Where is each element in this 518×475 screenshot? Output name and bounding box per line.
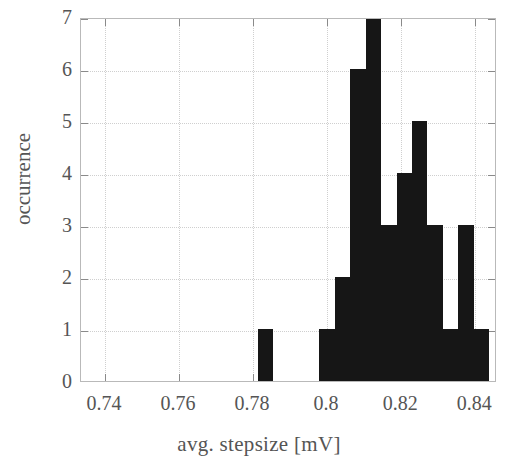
histogram-bar xyxy=(319,329,334,381)
x-gridline xyxy=(327,19,328,381)
x-tick-mark-top xyxy=(105,19,106,26)
y-tick-mark-left xyxy=(81,331,88,332)
y-tick-mark-right xyxy=(488,71,495,72)
histogram-bar xyxy=(335,277,350,381)
histogram-bar xyxy=(427,225,442,381)
histogram-bar xyxy=(366,18,381,381)
y-gridline xyxy=(81,175,495,176)
x-tick-mark-top xyxy=(179,19,180,26)
y-tick-mark-left xyxy=(81,71,88,72)
plot-area xyxy=(80,18,496,382)
x-axis-title: avg. stepsize [mV] xyxy=(0,432,518,456)
histogram-bar xyxy=(443,329,458,381)
y-tick-mark-left xyxy=(81,227,88,228)
y-tick-mark-left xyxy=(81,175,88,176)
x-tick-mark-top xyxy=(475,19,476,26)
x-axis-tick-labels: 0.740.760.780.80.820.84 xyxy=(0,392,518,418)
y-tick-label: 1 xyxy=(12,319,72,339)
y-tick-label: 0 xyxy=(12,371,72,391)
histogram-bar xyxy=(258,329,273,381)
x-gridline xyxy=(105,19,106,381)
y-tick-mark-left xyxy=(81,19,88,20)
y-gridline xyxy=(81,71,495,72)
x-tick-mark-top xyxy=(401,19,402,26)
histogram-bar xyxy=(412,121,427,381)
y-tick-mark-left xyxy=(81,279,88,280)
x-tick-mark-top xyxy=(327,19,328,26)
y-tick-mark-right xyxy=(488,123,495,124)
x-tick-mark-bottom xyxy=(179,374,180,381)
y-tick-mark-right xyxy=(488,19,495,20)
x-tick-mark-top xyxy=(253,19,254,26)
x-gridline xyxy=(179,19,180,381)
x-tick-mark-bottom xyxy=(253,374,254,381)
y-gridline xyxy=(81,123,495,124)
x-tick-mark-bottom xyxy=(105,374,106,381)
histogram-bar xyxy=(474,329,489,381)
y-tick-mark-right xyxy=(488,331,495,332)
x-tick-label: 0.84 xyxy=(429,392,518,414)
y-tick-mark-right xyxy=(488,227,495,228)
y-axis-title: occurrence xyxy=(12,64,34,294)
y-tick-label: 7 xyxy=(12,7,72,27)
histogram-bar xyxy=(381,225,396,381)
x-gridline xyxy=(475,19,476,381)
x-gridline xyxy=(253,19,254,381)
y-tick-mark-right xyxy=(488,279,495,280)
histogram-bar xyxy=(397,173,412,381)
histogram-bar xyxy=(350,69,365,381)
histogram-bar xyxy=(458,225,473,381)
histogram-figure: 01234567 0.740.760.780.80.820.84 avg. st… xyxy=(0,0,518,475)
y-tick-mark-left xyxy=(81,123,88,124)
y-tick-mark-right xyxy=(488,175,495,176)
